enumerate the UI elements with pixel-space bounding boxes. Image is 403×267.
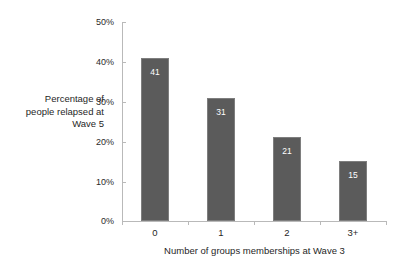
bar-value-label-2: 21 [274,147,300,156]
bar-category-0[interactable]: 41 [141,58,169,221]
x-tick-mark-0 [122,221,123,225]
x-tick-label-1: 1 [195,228,247,238]
x-tick-label-3: 3+ [327,228,379,238]
y-tick-label-40: 40% [88,58,114,67]
x-tick-mark-1 [188,221,189,225]
plot-area: 41 31 21 15 [122,22,387,221]
bar-slot-2: 21 [273,22,301,221]
y-tick-label-30: 30% [88,98,114,107]
bar-slot-1: 31 [207,22,235,221]
bar-slot-3: 15 [339,22,367,221]
y-tick-label-0: 0% [88,217,114,226]
bar-value-label-3: 15 [340,171,366,180]
y-tick-label-50: 50% [88,18,114,27]
bar-category-2[interactable]: 21 [273,137,301,221]
x-tick-mark-2 [254,221,255,225]
x-tick-label-2: 2 [261,228,313,238]
y-tick-label-10: 10% [88,178,114,187]
x-tick-mark-3 [320,221,321,225]
bar-chart: Percentage of people relapsed at Wave 5 … [0,0,403,267]
bar-category-1[interactable]: 31 [207,98,235,221]
x-tick-label-0: 0 [129,228,181,238]
bar-value-label-0: 41 [142,68,168,77]
x-tick-mark-4 [386,221,387,225]
x-axis-title: Number of groups memberships at Wave 3 [122,245,387,256]
y-tick-label-20: 20% [88,138,114,147]
bar-value-label-1: 31 [208,108,234,117]
bar-category-3[interactable]: 15 [339,161,367,221]
bar-slot-0: 41 [141,22,169,221]
